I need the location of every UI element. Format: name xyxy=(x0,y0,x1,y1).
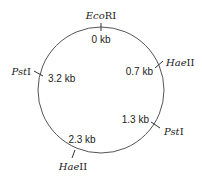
site-label-haeii-2: HaeII xyxy=(58,161,88,172)
site-position-haeii-2: 2.3 kb xyxy=(68,134,96,145)
site-position-ecori: 0 kb xyxy=(92,34,111,45)
site-position-psti-1: 1.3 kb xyxy=(122,114,150,125)
site-tick-psti-2 xyxy=(34,71,43,76)
site-label-ecori: EcoRI xyxy=(85,10,116,21)
site-position-psti-2: 3.2 kb xyxy=(48,73,76,84)
site-label-psti-1: PstI xyxy=(163,126,184,137)
plasmid-map: EcoRI 0 kb HaeII 0.7 kb PstI 1.3 kb HaeI… xyxy=(0,0,202,178)
site-label-haeii-1: HaeII xyxy=(165,57,195,68)
site-position-haeii-1: 0.7 kb xyxy=(126,66,154,77)
site-tick-haeii-1 xyxy=(155,61,163,68)
plasmid-circle xyxy=(38,27,164,153)
site-tick-haeii-2 xyxy=(72,150,75,158)
site-label-psti-2: PstI xyxy=(10,66,31,77)
